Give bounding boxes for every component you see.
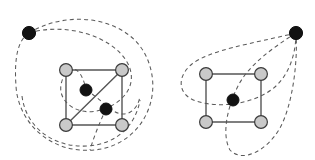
gray-node <box>200 116 213 129</box>
black-node <box>289 26 302 39</box>
black-node <box>100 103 112 115</box>
figure-background <box>0 0 315 160</box>
graph-figure <box>0 0 315 160</box>
gray-node <box>116 119 129 132</box>
gray-node <box>255 116 268 129</box>
gray-node <box>60 64 73 77</box>
graph-canvas <box>0 0 315 160</box>
gray-node <box>116 64 129 77</box>
black-node <box>22 26 35 39</box>
black-node <box>227 94 239 106</box>
gray-node <box>200 68 213 81</box>
black-node <box>80 84 92 96</box>
gray-node <box>60 119 73 132</box>
gray-node <box>255 68 268 81</box>
